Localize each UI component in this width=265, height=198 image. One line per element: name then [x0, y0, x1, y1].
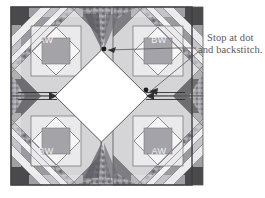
quilt-block-diagram [0, 0, 265, 198]
stop-dot-right [144, 88, 149, 93]
stop-at-dot-note: Stop at dot and backstitch. [198, 32, 262, 55]
note-line-2: and backstitch. [198, 44, 262, 56]
quadrant-label-bottom-right: AW [147, 146, 171, 158]
quadrant-label-top-left: AW [34, 35, 58, 47]
note-line-1: Stop at dot [198, 32, 262, 44]
quadrant-label-top-right: BW [147, 35, 171, 47]
figure-canvas: Stop at dot and backstitch. AW BW BW AW [0, 0, 265, 198]
quadrant-label-bottom-left: BW [34, 146, 58, 158]
quilt-block [11, 7, 203, 185]
stop-dot-top [102, 47, 107, 52]
